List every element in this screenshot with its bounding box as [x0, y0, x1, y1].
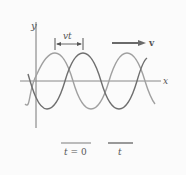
- diagram-svg: y x vt v t = 0 t: [0, 0, 186, 175]
- vt-arrowhead-left: [56, 42, 61, 46]
- vt-arrowhead-right: [77, 42, 82, 46]
- x-axis-label: x: [163, 76, 168, 86]
- velocity-label: v: [148, 38, 155, 48]
- y-axis-label: y: [30, 20, 37, 31]
- wave-diagram: y x vt v t = 0 t: [0, 0, 186, 175]
- legend-label-t: t: [118, 147, 122, 157]
- velocity-arrowhead: [138, 40, 146, 46]
- legend-label-t0: t = 0: [64, 147, 87, 157]
- vt-label: vt: [63, 31, 72, 41]
